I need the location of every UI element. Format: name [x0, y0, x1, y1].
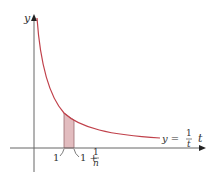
- curve-label-denominator: t: [187, 140, 191, 149]
- tick-1-pointer: [60, 149, 64, 156]
- curve-y-equals-1-over-t: [37, 18, 160, 138]
- y-axis-arrow-icon: [31, 14, 37, 21]
- tick-1-label: 1: [53, 153, 59, 163]
- y-axis-label: y: [24, 13, 30, 24]
- shaded-region: [64, 113, 74, 148]
- tick-1n-numerator: 1: [93, 148, 99, 157]
- diagram-canvas: [0, 0, 213, 177]
- t-axis-label: t: [198, 133, 202, 144]
- x-axis-arrow-icon: [199, 145, 206, 151]
- curve-label-lhs: y =: [162, 134, 179, 144]
- curve-label-numerator: 1: [186, 129, 192, 138]
- tick-1n-denominator: n: [93, 159, 99, 168]
- tick-1n-pointer: [74, 149, 79, 157]
